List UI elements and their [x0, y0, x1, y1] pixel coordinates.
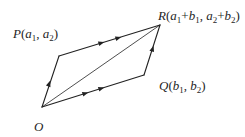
- label-q: Q(b1, b2): [159, 79, 206, 93]
- edge-o-p: [42, 56, 59, 107]
- diagonal-o-r: [42, 25, 160, 107]
- arrow-icon: [98, 40, 105, 46]
- arrow-icon: [82, 90, 89, 96]
- arrow-icon: [115, 35, 122, 41]
- arrow-icon: [46, 80, 52, 87]
- edge-p-r: [59, 25, 160, 56]
- arrow-icon: [98, 85, 105, 91]
- arrow-icon: [149, 45, 155, 52]
- label-r: R(a1+b1, a2+b2): [158, 9, 240, 23]
- edge-o-q: [42, 75, 144, 107]
- label-o: O: [34, 120, 43, 134]
- label-p: P(a1, a2): [13, 27, 58, 41]
